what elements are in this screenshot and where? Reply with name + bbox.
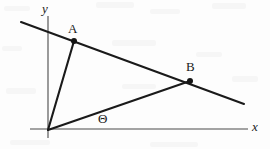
y-axis-label: y	[42, 2, 48, 15]
ray-origin-to-B	[48, 81, 190, 130]
geometry-figure	[0, 0, 270, 149]
secant-line-through-A-and-B	[21, 22, 244, 104]
diagram-canvas: y x A B Θ	[0, 0, 270, 149]
point-B-marker	[187, 78, 193, 84]
angle-theta-label: Θ	[98, 112, 107, 125]
point-B-label: B	[186, 60, 195, 73]
x-axis-label: x	[252, 120, 258, 133]
ray-origin-to-A	[48, 41, 74, 130]
point-A-label: A	[68, 22, 77, 35]
point-A-marker	[71, 38, 77, 44]
